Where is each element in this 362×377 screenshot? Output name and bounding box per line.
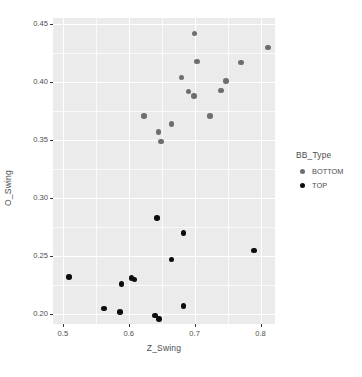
y-tick-label: 0.25 (18, 251, 48, 261)
y-tick-label: 0.20 (18, 309, 48, 319)
circle-icon (300, 169, 305, 174)
data-point-top (251, 248, 257, 254)
data-point-bottom (238, 60, 244, 66)
data-point-bottom (169, 121, 175, 127)
data-point-bottom (141, 113, 147, 119)
data-point-top (169, 257, 175, 263)
data-point-bottom (265, 45, 271, 51)
y-tick-label: 0.35 (18, 135, 48, 145)
x-axis-tick-labels: 0.50.60.70.8 (53, 328, 275, 340)
gridline-horizontal-minor (53, 111, 275, 112)
gridline-horizontal-major (53, 24, 275, 25)
data-point-top (156, 316, 162, 322)
data-point-bottom (158, 139, 164, 145)
gridline-horizontal-minor (53, 285, 275, 286)
data-point-top (181, 303, 187, 309)
y-tick-mark (50, 24, 53, 25)
gridline-vertical-major (63, 18, 64, 324)
gridline-horizontal-major (53, 82, 275, 83)
legend: BB_Type BOTTOMTOP (296, 150, 360, 193)
gridline-horizontal-major (53, 198, 275, 199)
gridline-vertical-minor (96, 18, 97, 324)
y-tick-label: 0.40 (18, 77, 48, 87)
gridline-vertical-minor (162, 18, 163, 324)
legend-items: BOTTOMTOP (296, 165, 360, 192)
x-tick-mark (261, 324, 262, 327)
data-point-bottom (218, 88, 224, 94)
x-tick-mark (63, 324, 64, 327)
data-point-top (154, 215, 160, 221)
gridline-horizontal-minor (53, 169, 275, 170)
gridline-horizontal-major (53, 256, 275, 257)
legend-item-label: TOP (312, 181, 327, 190)
data-point-top (66, 274, 72, 280)
data-point-top (101, 306, 107, 312)
data-point-bottom (179, 75, 185, 81)
y-tick-label: 0.30 (18, 193, 48, 203)
y-tick-mark (50, 82, 53, 83)
legend-item-bottom[interactable]: BOTTOM (296, 165, 360, 178)
x-tick-mark (195, 324, 196, 327)
scatter-plot: O_Swing 0.200.250.300.350.400.45 0.50.60… (0, 0, 362, 377)
x-axis-title: Z_Swing (53, 343, 275, 353)
y-tick-label: 0.45 (18, 19, 48, 29)
data-point-bottom (191, 93, 197, 99)
gridline-vertical-minor (228, 18, 229, 324)
gridline-horizontal-major (53, 314, 275, 315)
data-point-top (132, 277, 138, 283)
y-tick-mark (50, 314, 53, 315)
x-tick-label: 0.8 (246, 328, 276, 340)
gridline-horizontal-minor (53, 53, 275, 54)
y-tick-mark (50, 256, 53, 257)
y-axis-tick-labels: 0.200.250.300.350.400.45 (18, 18, 48, 324)
legend-key-swatch (296, 179, 309, 192)
gridline-horizontal-major (53, 140, 275, 141)
data-point-top (117, 309, 123, 315)
data-point-bottom (194, 59, 200, 65)
data-point-bottom (223, 78, 229, 84)
circle-icon (300, 183, 305, 188)
legend-key-swatch (296, 165, 309, 178)
x-tick-mark (129, 324, 130, 327)
x-tick-label: 0.6 (114, 328, 144, 340)
plot-panel (53, 18, 275, 324)
data-point-bottom (192, 31, 198, 37)
data-point-bottom (207, 113, 213, 119)
data-point-top (119, 281, 125, 287)
gridline-vertical-major (261, 18, 262, 324)
y-tick-mark (50, 198, 53, 199)
y-tick-mark (50, 140, 53, 141)
legend-item-label: BOTTOM (312, 167, 343, 176)
data-point-bottom (156, 129, 162, 135)
x-tick-label: 0.5 (48, 328, 78, 340)
gridline-horizontal-minor (53, 227, 275, 228)
data-point-top (181, 230, 187, 236)
legend-item-top[interactable]: TOP (296, 179, 360, 192)
x-tick-label: 0.7 (180, 328, 210, 340)
y-axis-title: O_Swing (1, 0, 15, 377)
legend-title: BB_Type (296, 150, 360, 160)
